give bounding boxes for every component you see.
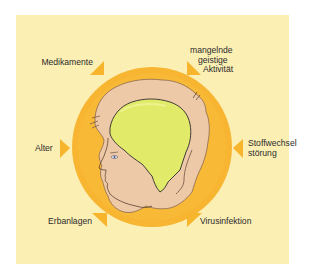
- label-line: Alter: [35, 143, 53, 153]
- arrow-stoffwechsel: [233, 139, 243, 158]
- label-stoffwechselstoerung: Stoffwechsel störung: [248, 139, 297, 158]
- label-line: Virusinfektion: [200, 216, 251, 226]
- label-geistige-aktivitaet: mangelnde geistige Aktivität: [190, 46, 260, 75]
- label-line: Medikamente: [41, 57, 93, 67]
- label-alter: Alter: [35, 144, 53, 154]
- arrow-alter: [60, 139, 70, 158]
- label-line: Aktivität: [190, 65, 260, 75]
- label-medikamente: Medikamente: [41, 58, 93, 68]
- label-virusinfektion: Virusinfektion: [200, 217, 251, 227]
- label-line: störung: [248, 149, 297, 159]
- label-line: Erbanlagen: [48, 216, 92, 226]
- arrow-erbanlagen: [92, 213, 107, 227]
- label-erbanlagen: Erbanlagen: [48, 217, 92, 227]
- head-profile-with-brain-icon: [90, 79, 209, 212]
